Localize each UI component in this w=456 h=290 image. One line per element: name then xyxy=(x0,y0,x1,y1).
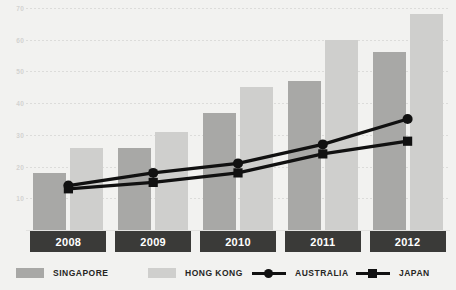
marker-japan-2009 xyxy=(149,178,158,187)
legend-label: SINGAPORE xyxy=(53,268,109,278)
marker-australia-2009 xyxy=(148,168,158,178)
marker-australia-2012 xyxy=(403,114,413,124)
y-tick-label-60: 60 xyxy=(0,36,24,43)
plot-area: 10203040506070 xyxy=(26,8,450,230)
legend-label: AUSTRALIA xyxy=(295,268,349,278)
line-series-layer xyxy=(26,8,450,230)
marker-australia-2011 xyxy=(318,139,328,149)
legend-line-square-icon xyxy=(356,267,390,279)
y-tick-label-70: 70 xyxy=(0,5,24,12)
legend-item-australia[interactable]: AUSTRALIA xyxy=(252,262,349,284)
year-label-2012[interactable]: 2012 xyxy=(370,231,446,252)
legend-item-hong-kong[interactable]: HONG KONG xyxy=(148,262,243,284)
year-label-2011[interactable]: 2011 xyxy=(285,231,361,252)
y-tick-label-30: 30 xyxy=(0,131,24,138)
chart-container: 10203040506070 20082009201020112012 SING… xyxy=(0,0,456,290)
y-tick-label-20: 20 xyxy=(0,163,24,170)
year-label-2010[interactable]: 2010 xyxy=(200,231,276,252)
y-tick-label-40: 40 xyxy=(0,100,24,107)
legend-label: HONG KONG xyxy=(185,268,243,278)
y-tick-label-10: 10 xyxy=(0,195,24,202)
legend-item-japan[interactable]: JAPAN xyxy=(356,262,430,284)
marker-japan-2011 xyxy=(318,149,327,158)
year-label-2008[interactable]: 2008 xyxy=(30,231,106,252)
x-axis-category-labels: 20082009201020112012 xyxy=(26,231,450,252)
circle-marker-icon xyxy=(264,269,273,278)
legend-label: JAPAN xyxy=(399,268,430,278)
marker-japan-2010 xyxy=(233,168,242,177)
chart-legend: SINGAPOREHONG KONGAUSTRALIAJAPAN xyxy=(0,262,456,284)
marker-australia-2010 xyxy=(233,158,243,168)
y-tick-label-50: 50 xyxy=(0,68,24,75)
marker-japan-2012 xyxy=(403,137,412,146)
swatch-hongkong-icon xyxy=(148,268,176,278)
legend-line-circle-icon xyxy=(252,267,286,279)
swatch-singapore-icon xyxy=(16,268,44,278)
marker-japan-2008 xyxy=(64,184,73,193)
legend-item-singapore[interactable]: SINGAPORE xyxy=(16,262,109,284)
square-marker-icon xyxy=(368,269,377,278)
year-label-2009[interactable]: 2009 xyxy=(115,231,191,252)
